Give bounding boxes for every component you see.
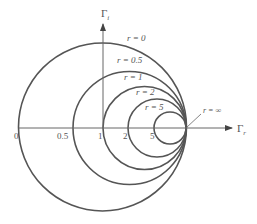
infinity-leader-line bbox=[186, 114, 201, 128]
circle-label-r-1: r = 1 bbox=[124, 72, 143, 82]
tick-label: 1 bbox=[98, 131, 103, 141]
tick-label: 2 bbox=[123, 131, 128, 141]
r-infinity-label: r = ∞ bbox=[203, 106, 222, 115]
tick-label: 5 bbox=[150, 131, 155, 141]
tick-label: 0 bbox=[14, 131, 19, 141]
tick-label: 0.5 bbox=[57, 131, 69, 141]
gamma-r-subscript: r bbox=[243, 129, 246, 137]
circle-labels: r = 0r = 0.5r = 1r = 2r = 5 bbox=[117, 33, 164, 112]
axis-tick-labels: 00.5125 bbox=[14, 131, 155, 141]
circle-label-r-5: r = 5 bbox=[145, 102, 164, 112]
circle-label-r-0: r = 0 bbox=[127, 33, 146, 43]
circle-label-r-2: r = 2 bbox=[136, 87, 155, 97]
circle-label-r-0-5: r = 0.5 bbox=[117, 55, 143, 65]
gamma-i-subscript: i bbox=[107, 14, 109, 22]
gamma-i-axis-label: Γi bbox=[101, 7, 109, 22]
smith-chart-diagram: Γr Γi r = 0r = 0.5r = 1r = 2r = 5 00.512… bbox=[0, 0, 257, 224]
gamma-r-axis-label: Γr bbox=[237, 122, 246, 137]
